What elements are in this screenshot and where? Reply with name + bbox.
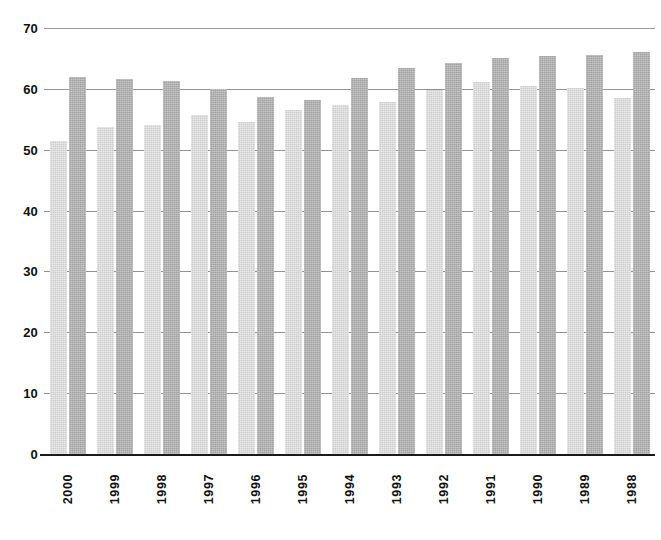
x-axis-tick-label-2000: 2000 [61, 474, 75, 504]
bar-series-2-1991[interactable] [492, 58, 509, 454]
x-axis-tick-label-1995: 1995 [296, 474, 310, 504]
bar-series-2-1989[interactable] [586, 55, 603, 454]
x-axis: 2000199919981997199619951994199319921991… [44, 458, 655, 540]
bar-series-2-1997[interactable] [210, 89, 227, 454]
bar-series-1-1991[interactable] [473, 82, 490, 454]
x-axis-tick-label-1992: 1992 [437, 474, 451, 504]
bar-series-1-1988[interactable] [614, 98, 631, 454]
x-axis-tick-label-1998: 1998 [155, 474, 169, 504]
bar-group-1994 [326, 28, 373, 454]
x-axis-tick-label-1997: 1997 [202, 474, 216, 504]
bar-series-2-1994[interactable] [351, 78, 368, 454]
bar-series-2-1992[interactable] [445, 63, 462, 454]
bar-group-1992 [420, 28, 467, 454]
bar-series-1-2000[interactable] [50, 141, 67, 454]
bar-series-2-1995[interactable] [304, 100, 321, 454]
plot-area [44, 28, 655, 454]
bar-series-2-2000[interactable] [69, 77, 86, 454]
bar-series-1-1994[interactable] [332, 105, 349, 454]
y-axis-tick-label: 20 [4, 326, 38, 339]
bar-series-2-1988[interactable] [633, 52, 650, 454]
bar-series-1-1996[interactable] [238, 122, 255, 454]
y-axis-tick-label: 30 [4, 265, 38, 278]
x-axis-baseline [40, 454, 655, 456]
bar-group-2000 [44, 28, 91, 454]
x-axis-tick-label-1991: 1991 [484, 474, 498, 504]
bar-series-1-1990[interactable] [520, 86, 537, 454]
y-axis-tick-label: 50 [4, 143, 38, 156]
y-axis-tick-label: 10 [4, 387, 38, 400]
bar-series-2-1999[interactable] [116, 79, 133, 454]
bar-group-1988 [608, 28, 655, 454]
bar-group-1999 [91, 28, 138, 454]
x-axis-tick-label-1999: 1999 [108, 474, 122, 504]
bar-group-1996 [232, 28, 279, 454]
bar-series-2-1996[interactable] [257, 97, 274, 454]
bar-group-1990 [514, 28, 561, 454]
bar-series-2-1998[interactable] [163, 81, 180, 454]
bar-group-1995 [279, 28, 326, 454]
bar-series-1-1997[interactable] [191, 115, 208, 454]
bar-series-1-1992[interactable] [426, 90, 443, 454]
x-axis-tick-label-1994: 1994 [343, 474, 357, 504]
bar-series-1-1999[interactable] [97, 127, 114, 454]
bar-chart: 010203040506070 200019991998199719961995… [0, 0, 661, 540]
bar-series-1-1995[interactable] [285, 110, 302, 454]
bar-series-1-1993[interactable] [379, 102, 396, 454]
x-axis-tick-label-1989: 1989 [578, 474, 592, 504]
bar-series-1-1998[interactable] [144, 125, 161, 454]
bar-group-1997 [185, 28, 232, 454]
y-axis-tick-label: 70 [4, 22, 38, 35]
y-axis-tick-label: 40 [4, 204, 38, 217]
y-axis-tick-label: 60 [4, 82, 38, 95]
y-axis: 010203040506070 [0, 0, 38, 540]
bar-series-2-1990[interactable] [539, 56, 556, 454]
y-axis-tick-label: 0 [4, 448, 38, 461]
bar-group-1991 [467, 28, 514, 454]
x-axis-tick-label-1988: 1988 [625, 474, 639, 504]
x-axis-tick-label-1996: 1996 [249, 474, 263, 504]
bar-series-1-1989[interactable] [567, 88, 584, 454]
bar-group-1998 [138, 28, 185, 454]
x-axis-tick-label-1993: 1993 [390, 474, 404, 504]
x-axis-tick-label-1990: 1990 [531, 474, 545, 504]
bar-group-1993 [373, 28, 420, 454]
bar-series-2-1993[interactable] [398, 68, 415, 454]
bar-group-1989 [561, 28, 608, 454]
